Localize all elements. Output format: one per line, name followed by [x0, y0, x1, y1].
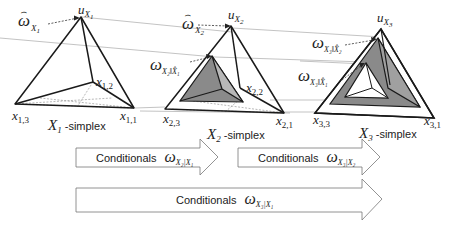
- svg-text:X1 -simplex: X1 -simplex: [47, 117, 106, 135]
- simplex-x3: [315, 29, 434, 118]
- svg-text:X₃‖X̂₂: X₃‖X̂₂: [323, 44, 342, 54]
- svg-text:X3 -simplex: X3 -simplex: [358, 125, 417, 143]
- simplex-diagram: ω ⌢ X1 uX1 x1,2 x1,3 x1,1 X1 -simplex ω …: [0, 0, 451, 229]
- svg-text:ω: ω: [312, 33, 324, 52]
- svg-text:x2,3: x2,3: [162, 111, 181, 128]
- svg-text:⌢: ⌢: [184, 9, 191, 20]
- svg-text:x2,2: x2,2: [245, 80, 263, 97]
- svg-text:uX3: uX3: [377, 10, 393, 29]
- svg-text:x1,1: x1,1: [119, 108, 137, 125]
- labels-x1: ω ⌢ X1 uX1 x1,2 x1,3 x1,1 X1 -simplex: [11, 2, 137, 135]
- svg-text:ω: ω: [150, 55, 162, 74]
- svg-text:x1,3: x1,3: [11, 108, 30, 125]
- svg-text:x1,2: x1,2: [95, 74, 113, 91]
- svg-text:ω: ω: [298, 66, 310, 85]
- svg-text:X₂‖X̂₁: X₂‖X̂₁: [161, 66, 180, 76]
- svg-text:X2 -simplex: X2 -simplex: [206, 126, 265, 144]
- conditional-arrow-x2-x1: ConditionalsωX₂|X₁: [76, 139, 218, 175]
- svg-text:X₃‖X̂₁: X₃‖X̂₁: [309, 77, 328, 87]
- simplex-x2: [165, 24, 284, 114]
- svg-text:uX2: uX2: [228, 7, 244, 26]
- svg-text:x2,1: x2,1: [275, 113, 293, 130]
- svg-text:X2: X2: [194, 25, 205, 37]
- conditional-arrow-x3-x2: ConditionalsωX₃|X₂: [238, 139, 380, 175]
- svg-text:X1: X1: [30, 23, 40, 35]
- svg-text:x3,3: x3,3: [312, 112, 331, 129]
- conditional-arrow-x3-x1: ConditionalsωX₃|X₁: [76, 179, 382, 220]
- hat-mark: ⌢: [20, 6, 27, 17]
